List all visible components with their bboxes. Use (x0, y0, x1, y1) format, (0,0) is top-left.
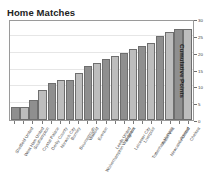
x-axis-tick (69, 121, 70, 124)
bar (147, 43, 155, 120)
x-axis-label-slot: Arsenal (175, 126, 184, 179)
x-axis-tick (60, 121, 61, 124)
y-axis-tick (194, 37, 197, 38)
x-axis-label-slot: Leeds United (111, 126, 120, 179)
bar (93, 63, 101, 120)
y-axis: 051015202530 (194, 20, 214, 121)
x-axis-tick-slot (166, 121, 175, 125)
bar (75, 73, 83, 120)
x-axis-label-slot: Burnley (65, 126, 74, 179)
bar (20, 107, 28, 120)
x-axis-tick (14, 121, 15, 124)
x-axis-label-slot: Crystal Palace (37, 126, 46, 179)
x-axis-tick-slot (138, 121, 147, 125)
x-axis-tick (161, 121, 162, 124)
y-axis-tick-label: 5 (198, 102, 200, 107)
bar (165, 32, 173, 120)
x-axis-label-slot: Sheffield United (10, 126, 19, 179)
y-axis-tick-label: 0 (198, 119, 200, 124)
x-axis-tick (188, 121, 189, 124)
bar (11, 107, 19, 120)
x-axis-tick-slot (92, 121, 101, 125)
bar (84, 66, 92, 120)
plot-area (9, 20, 194, 121)
x-axis-tick (96, 121, 97, 124)
y-axis-tick (194, 87, 197, 88)
x-axis-tick-slot (157, 121, 166, 125)
y-axis-title: Cumulative Points (179, 44, 186, 98)
x-axis-tick (124, 121, 125, 124)
x-axis-tick-slot (147, 121, 156, 125)
x-axis-tick-slot (175, 121, 184, 125)
bar (111, 56, 119, 120)
x-axis-tick (142, 121, 143, 124)
bar (138, 46, 146, 120)
x-axis-tick (87, 121, 88, 124)
chart-figure: Home Matches 051015202530 Cumulative Poi… (0, 0, 214, 179)
x-axis-label-slot: Watford (83, 126, 92, 179)
x-axis-tick (170, 121, 171, 124)
y-axis-tick-label: 15 (198, 68, 203, 73)
x-axis-tick-label: Chelsea (188, 126, 201, 142)
y-axis-tick (194, 71, 197, 72)
bar (102, 59, 110, 120)
x-axis-tick-slot (10, 121, 19, 125)
x-axis-label-slot: Brighton (120, 126, 129, 179)
x-axis-tick-slot (111, 121, 120, 125)
x-axis-label-slot: Wolverhampton Wanderers (102, 126, 111, 179)
y-axis-tick (194, 54, 197, 55)
x-axis-tick-slot (56, 121, 65, 125)
y-axis-tick (194, 104, 197, 105)
x-axis-tick-slot (28, 121, 37, 125)
x-axis-tick-slot (102, 121, 111, 125)
x-axis-tick-slot (74, 121, 83, 125)
chart-title: Home Matches (7, 7, 75, 18)
x-axis-label-slot: Liverpool (138, 126, 147, 179)
x-axis-tick (78, 121, 79, 124)
x-axis-tick-slot (65, 121, 74, 125)
x-axis-tick-slot (184, 121, 193, 125)
bar-series (10, 21, 193, 120)
x-axis-label-slot: Chelsea (184, 126, 193, 179)
bar (29, 100, 37, 120)
x-axis-tick (42, 121, 43, 124)
x-axis-tick (179, 121, 180, 124)
x-axis-tick (32, 121, 33, 124)
bar (66, 80, 74, 120)
bar (38, 90, 46, 120)
x-axis-label-slot: Newcastle United (166, 126, 175, 179)
bar (129, 49, 137, 120)
x-axis-label-slot: Tottenham Hotspur (147, 126, 156, 179)
x-axis-label-slot: Leicester City (129, 126, 138, 179)
x-axis-ticks (9, 121, 194, 125)
x-axis-tick-slot (19, 121, 28, 125)
x-axis-label-slot: Everton (92, 126, 101, 179)
bar (48, 83, 56, 120)
y-axis-tick-label: 30 (198, 18, 203, 23)
x-axis-tick-slot (120, 121, 129, 125)
x-axis-label-slot: Southampton (28, 126, 37, 179)
bar (156, 36, 164, 120)
x-axis-tick-slot (83, 121, 92, 125)
y-axis-tick-label: 10 (198, 85, 203, 90)
x-axis-tick (106, 121, 107, 124)
x-axis-tick (115, 121, 116, 124)
x-axis-tick (151, 121, 152, 124)
x-axis-label-slot: Aston Villa (157, 126, 166, 179)
y-axis-tick-label: 20 (198, 51, 203, 56)
x-axis-tick (51, 121, 52, 124)
bar (120, 53, 128, 120)
x-axis-tick (23, 121, 24, 124)
x-axis-label-slot: West Ham United (19, 126, 28, 179)
y-axis-tick (194, 20, 197, 21)
x-axis-label-slot: Norwich City (56, 126, 65, 179)
x-axis-tick-slot (47, 121, 56, 125)
x-axis-tick-slot (129, 121, 138, 125)
y-axis-tick-label: 25 (198, 34, 203, 39)
x-axis-label-slot: Bournemouth (74, 126, 83, 179)
x-axis-tick (133, 121, 134, 124)
x-axis-label-slot: Derby County (47, 126, 56, 179)
bar (57, 80, 65, 120)
y-axis-tick (194, 121, 197, 122)
x-axis-labels: Sheffield UnitedWest Ham UnitedSouthampt… (9, 126, 194, 179)
